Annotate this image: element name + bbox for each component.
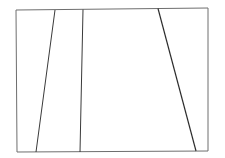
- divider-line-1: [36, 10, 55, 152]
- diagram-figure: [0, 0, 225, 158]
- divider-line-3: [158, 9, 196, 152]
- divider-line-2: [80, 10, 83, 153]
- diagram-canvas: [0, 0, 225, 158]
- frame-rectangle: [16, 8, 208, 152]
